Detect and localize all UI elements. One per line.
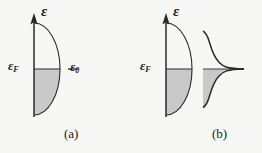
density-of-states-figure: ε εF ε0 (a) ε εF (b) xyxy=(0,0,262,153)
fermi-level-subscript-a: F xyxy=(13,65,18,74)
fermi-level-subscript-b: F xyxy=(145,65,150,74)
impurity-level-subscript-a: 0 xyxy=(75,66,79,75)
resonance-curve-upper-b xyxy=(203,31,244,69)
panel-caption-b: (b) xyxy=(212,127,227,140)
panel-caption-a: (a) xyxy=(64,127,78,140)
panel-a: ε εF ε0 (a) xyxy=(0,0,131,153)
energy-axis-label-b: ε xyxy=(173,4,179,19)
fermi-level-label-a: εF xyxy=(8,59,19,74)
panel-b: ε εF (b) xyxy=(131,0,262,153)
impurity-level-label-a: ε0 xyxy=(70,60,79,75)
resonance-occupied-fill-b xyxy=(203,69,244,108)
panel-b-graphic xyxy=(131,0,262,153)
energy-axis-label-a: ε xyxy=(41,4,47,19)
fermi-level-label-b: εF xyxy=(140,59,151,74)
